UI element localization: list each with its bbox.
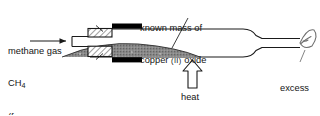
excess-line-2: methane — [280, 115, 316, 116]
clamp-jaw-bottom — [112, 57, 142, 62]
excess-line-1: excess — [280, 83, 316, 94]
flame-leader-line — [300, 50, 305, 62]
label-methane-gas: methane gas CH4 (from gas tap) — [8, 25, 62, 115]
methane-line-3: (from — [8, 112, 62, 115]
label-excess-methane: excess methane burned off — [280, 62, 316, 115]
methane-formula-text: CH — [8, 78, 21, 88]
copper-line-1: known mass of — [140, 23, 206, 34]
methane-formula: CH4 — [8, 78, 62, 91]
methane-formula-subscript: 4 — [21, 80, 25, 89]
hatched-rubber-stopper — [88, 26, 112, 60]
clamp-jaw-top — [112, 24, 142, 29]
copper-line-2: copper (II) oxide — [140, 55, 206, 67]
copper-prefix: copper — [140, 55, 171, 65]
copper-roman-numeral: (II) — [171, 56, 182, 65]
methane-line-1: methane gas — [8, 46, 62, 57]
label-heat: heat — [181, 92, 199, 103]
copper-suffix: oxide — [182, 55, 207, 65]
burning-methane-flame — [300, 30, 316, 48]
label-copper-oxide: known mass of copper (II) oxide — [140, 2, 206, 77]
